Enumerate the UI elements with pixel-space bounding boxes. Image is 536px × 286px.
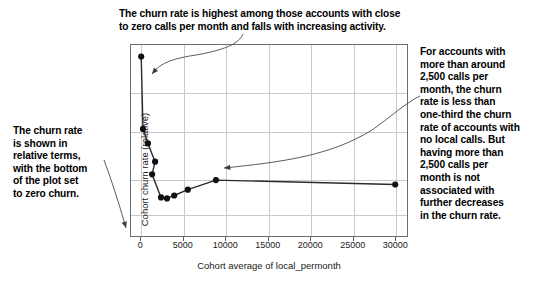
annotation-top-arrow (152, 34, 243, 74)
x-axis-title: Cohort average of local_permonth (130, 260, 408, 271)
data-point-5 (158, 194, 164, 200)
annotation-left-arrow (104, 160, 126, 228)
annotation-left-arrowhead (122, 221, 127, 228)
x-tick-label-4: 20000 (287, 240, 333, 250)
x-tick-label-5: 25000 (330, 240, 376, 250)
data-point-3 (152, 159, 158, 165)
x-tick-label-6: 30000 (372, 240, 418, 250)
x-tick-label-3: 15000 (245, 240, 291, 250)
chart-figure: The churn rate is highest among those ac… (0, 0, 536, 286)
series-line (141, 57, 395, 199)
annotation-arrows (104, 34, 420, 228)
data-point-7 (171, 192, 177, 198)
data-point-2 (145, 140, 151, 146)
data-point-4 (149, 171, 155, 177)
annotation-right-arrow (224, 96, 420, 168)
x-tick-label-2: 10000 (202, 240, 248, 250)
x-tick-label-0: 0 (117, 240, 163, 250)
annotation-arrowheads (122, 68, 231, 228)
annotation-right-arrowhead (224, 165, 230, 170)
data-point-10 (392, 181, 398, 187)
data-point-6 (164, 195, 170, 201)
data-point-8 (185, 187, 191, 193)
data-point-9 (213, 177, 219, 183)
x-tick-label-1: 5000 (160, 240, 206, 250)
data-point-1 (140, 126, 146, 132)
data-point-0 (138, 53, 144, 59)
series-markers (138, 53, 398, 201)
